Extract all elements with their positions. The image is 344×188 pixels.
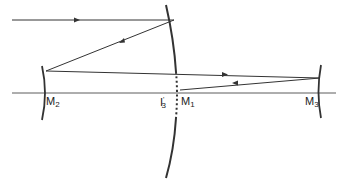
label-i3-prime: I'3	[160, 96, 166, 110]
arrow-icon	[74, 18, 80, 23]
arrow-icon	[222, 72, 228, 77]
mirror-m1-upper	[166, 5, 176, 72]
arrow-icon	[232, 81, 238, 86]
ray-m3-to-focus	[180, 78, 320, 90]
label-m3: M3	[305, 96, 319, 109]
ray-m1-to-m2	[46, 20, 174, 71]
mirror-m1-lower	[166, 118, 176, 178]
mirror-m1-dotted	[176, 72, 177, 118]
label-m2: M2	[46, 96, 60, 109]
label-m1: M1	[181, 96, 195, 109]
optical-diagram	[0, 0, 344, 188]
ray-m2-to-m3	[46, 71, 320, 78]
arrow-icon	[119, 38, 125, 43]
mirror-m3	[319, 65, 322, 118]
